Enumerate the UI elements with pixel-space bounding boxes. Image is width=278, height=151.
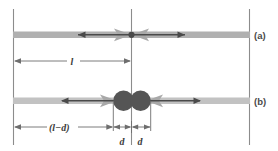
dimension-length-minus-d: (l−d) — [14, 119, 113, 134]
dimension-length: l — [14, 53, 131, 68]
dimension-label-length-minus-d: (l−d) — [49, 122, 70, 134]
row-a: (a) — [13, 29, 266, 42]
figure-canvas: (a) l — [0, 0, 278, 151]
collision-geometry-figure: (a) l — [0, 0, 278, 151]
dimension-arrowhead-d-left-end — [125, 124, 132, 129]
merged-particle-a — [128, 32, 134, 38]
row-b: (b) — [13, 91, 266, 111]
particle-b-right — [130, 91, 150, 111]
dimension-arrowhead-d-right-start — [132, 124, 139, 129]
dimension-arrowhead-length-left — [14, 58, 21, 64]
dimension-arrowhead-d-left-start — [113, 124, 120, 129]
dimension-d-right: d — [132, 124, 151, 147]
dimension-arrowhead-lmd-left — [14, 124, 21, 130]
dimension-arrowhead-lmd-right — [106, 124, 113, 130]
row-label-b: (b) — [254, 96, 266, 107]
dimension-label-length: l — [71, 56, 74, 67]
dimension-d-left: d — [113, 124, 131, 147]
dimension-arrowhead-length-right — [124, 58, 131, 64]
dimension-arrowhead-d-right-end — [144, 124, 151, 129]
dimension-label-d-left: d — [120, 136, 126, 147]
row-label-a: (a) — [254, 30, 266, 41]
dimension-label-d-right: d — [138, 136, 144, 147]
